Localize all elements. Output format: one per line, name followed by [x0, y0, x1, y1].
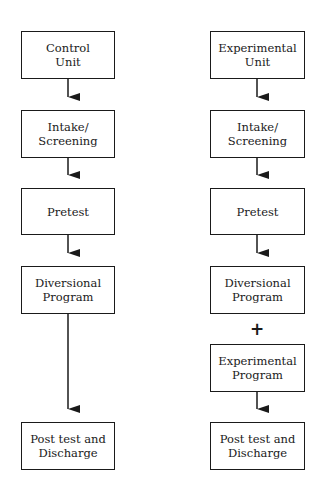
- control-post-test-discharge-box: Post test and Discharge: [21, 422, 115, 470]
- control-intake-screening-box: Intake/ Screening: [21, 110, 115, 158]
- experimental-program-box: Experimental Program: [210, 344, 305, 392]
- control-pretest-box: Pretest: [21, 188, 115, 235]
- experimental-intake-screening-label: Intake/ Screening: [228, 120, 287, 148]
- plus-icon: +: [247, 321, 267, 338]
- experimental-unit-box: Experimental Unit: [210, 31, 305, 79]
- control-unit-box: Control Unit: [21, 31, 115, 79]
- experimental-unit-label: Experimental Unit: [218, 41, 297, 69]
- experimental-pretest-box: Pretest: [210, 188, 305, 235]
- control-intake-screening-label: Intake/ Screening: [38, 120, 97, 148]
- experimental-post-test-discharge-box: Post test and Discharge: [210, 422, 305, 470]
- control-pretest-label: Pretest: [47, 205, 89, 219]
- experimental-diversional-program-label: Diversional Program: [224, 276, 290, 304]
- experimental-intake-screening-box: Intake/ Screening: [210, 110, 305, 158]
- control-diversional-program-box: Diversional Program: [21, 266, 115, 314]
- control-unit-label: Control Unit: [46, 41, 90, 69]
- experimental-pretest-label: Pretest: [237, 205, 279, 219]
- control-diversional-program-label: Diversional Program: [35, 276, 101, 304]
- experimental-program-label: Experimental Program: [218, 354, 297, 382]
- experimental-diversional-program-box: Diversional Program: [210, 266, 305, 314]
- experimental-post-test-discharge-label: Post test and Discharge: [220, 432, 296, 460]
- control-post-test-discharge-label: Post test and Discharge: [30, 432, 106, 460]
